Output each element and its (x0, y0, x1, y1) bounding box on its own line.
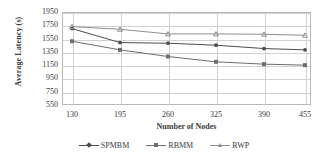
gridline (63, 79, 310, 80)
y-axis-tick-label: 750 (24, 88, 58, 96)
gridline (63, 13, 310, 14)
chart-figure: Average Latency (s) 19501750155013501150… (0, 0, 328, 163)
y-axis-title: Average Latency (s) (14, 0, 23, 107)
vertical-gridline (169, 13, 170, 104)
gridline (63, 53, 310, 54)
vertical-gridline (265, 13, 266, 104)
vertical-gridline (306, 13, 307, 104)
x-axis-tick-label: 455 (290, 110, 320, 119)
vertical-gridline (73, 13, 74, 104)
gridline (63, 93, 310, 94)
legend-marker-triangle-icon (210, 141, 230, 150)
x-axis-tick-label: 260 (153, 110, 183, 119)
x-axis-tick-label: 325 (201, 110, 231, 119)
legend-item-rbmm[interactable]: RBMM (146, 141, 193, 150)
legend-label: RBMM (168, 141, 193, 150)
x-axis-tick-label: 390 (249, 110, 279, 119)
legend-label: SPMBM (101, 141, 129, 150)
y-axis-tick-label: 550 (24, 101, 58, 109)
legend-item-rwp[interactable]: RWP (210, 141, 249, 150)
x-axis-tick-label: 130 (57, 110, 87, 119)
gridline (63, 26, 310, 27)
y-axis-tick-label: 1350 (24, 48, 58, 56)
vertical-gridline (121, 13, 122, 104)
plot-area (62, 12, 311, 105)
gridline (63, 40, 310, 41)
vertical-gridline (217, 13, 218, 104)
y-axis-tick-label: 950 (24, 74, 58, 82)
y-axis-tick-label: 1150 (24, 61, 58, 69)
legend-marker-diamond-icon (79, 141, 99, 150)
y-axis-tick-label: 1750 (24, 21, 58, 29)
legend-marker-square-icon (146, 141, 166, 150)
gridline (63, 66, 310, 67)
legend-item-spmbm[interactable]: SPMBM (79, 141, 129, 150)
chart-legend: SPMBMRBMMRWP (0, 141, 328, 150)
y-axis-tick-label: 1550 (24, 35, 58, 43)
x-axis-tick-label: 195 (105, 110, 135, 119)
x-axis-title: Number of Nodes (62, 122, 311, 131)
legend-label: RWP (232, 141, 249, 150)
y-axis-tick-label: 1950 (24, 8, 58, 16)
